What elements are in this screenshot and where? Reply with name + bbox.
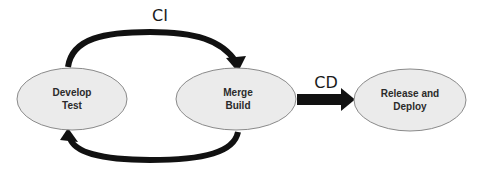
node-release-line1: Release and [381,88,439,99]
feedback-arrow [60,128,238,160]
node-merge-line1: Merge [223,87,253,98]
node-merge-build: Merge Build [176,68,296,130]
ci-label: CI [152,6,168,25]
ci-arrow [68,32,246,72]
ci-cd-diagram: CI CD Develop Test Merge Build Release a… [0,0,481,173]
node-develop-test: Develop Test [17,68,127,130]
node-develop-line2: Test [62,100,82,111]
node-merge-line2: Build [226,100,251,111]
node-release-line2: Deploy [393,101,427,112]
cd-label: CD [314,73,338,92]
node-release-deploy: Release and Deploy [354,69,466,131]
node-develop-line1: Develop [53,87,92,98]
